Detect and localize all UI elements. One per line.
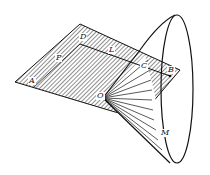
label-l: L [108, 46, 115, 54]
cone-base-ellipse [161, 15, 193, 163]
label-b: B [167, 66, 175, 74]
label-m: M [160, 129, 170, 137]
cone-plane-diagram [0, 0, 210, 175]
label-c: C [140, 62, 148, 70]
label-o: O [96, 92, 105, 100]
label-a: A [28, 77, 36, 85]
point-b [169, 75, 172, 78]
label-d: D [79, 33, 87, 41]
label-p: P [55, 54, 62, 62]
